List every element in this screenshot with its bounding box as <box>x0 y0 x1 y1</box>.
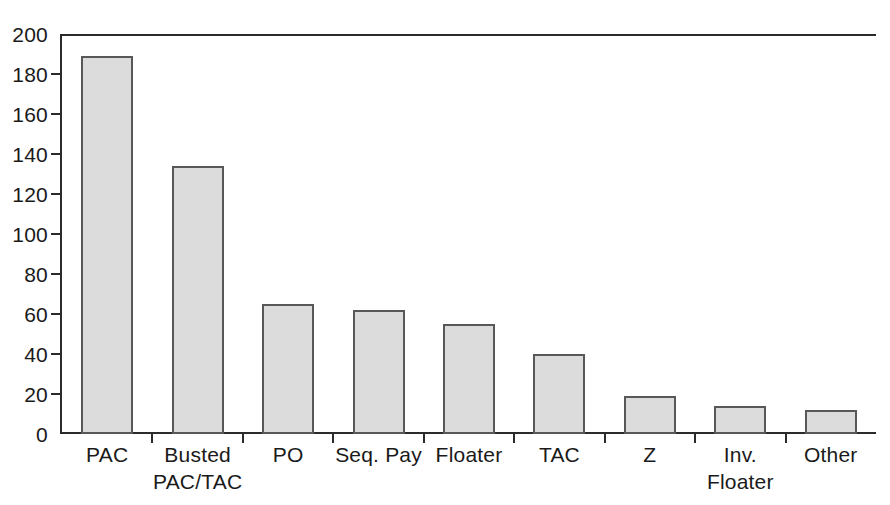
bar-chart: 200180160140120100806040200 PACBustedPAC… <box>0 0 890 505</box>
y-axis-tick-mark <box>51 273 60 275</box>
y-axis-tick-label: 80 <box>24 264 48 285</box>
y-axis-tick-mark <box>51 233 60 235</box>
bar <box>805 410 857 434</box>
x-axis-labels: PACBustedPAC/TACPOSeq. PayFloaterTACZInv… <box>62 441 876 505</box>
y-axis-tick-label: 20 <box>24 384 48 405</box>
y-axis-tick-label: 180 <box>12 64 48 85</box>
y-axis: 200180160140120100806040200 <box>0 34 60 436</box>
bar <box>624 396 676 434</box>
x-axis-label: Other <box>756 441 890 468</box>
y-axis-tick-label: 60 <box>24 304 48 325</box>
bar <box>443 324 495 434</box>
y-axis-tick-mark <box>51 73 60 75</box>
y-axis-tick-mark <box>51 393 60 395</box>
x-axis-label-line2: PAC/TAC <box>123 468 273 495</box>
y-axis-tick-mark <box>51 153 60 155</box>
bar <box>172 166 224 434</box>
y-axis-tick-label: 200 <box>12 24 48 45</box>
x-axis-label-line1: Inv. <box>724 443 757 466</box>
bar <box>81 56 133 434</box>
y-axis-tick-label: 100 <box>12 224 48 245</box>
x-axis-label-line1: TAC <box>539 443 580 466</box>
y-axis-tick-mark <box>51 193 60 195</box>
x-axis-label-line1: Z <box>643 443 656 466</box>
x-axis-label-line1: Other <box>804 443 858 466</box>
bars-container <box>62 34 876 434</box>
y-axis-tick-label: 140 <box>12 144 48 165</box>
x-axis-label-line2: Floater <box>665 468 815 495</box>
y-axis-tick-label: 160 <box>12 104 48 125</box>
y-axis-tick-label: 120 <box>12 184 48 205</box>
bar <box>533 354 585 434</box>
x-axis-label-line1: PO <box>273 443 304 466</box>
bar <box>262 304 314 434</box>
y-axis-tick-mark <box>51 353 60 355</box>
bar <box>714 406 766 434</box>
bar <box>353 310 405 434</box>
y-axis-tick-label: 40 <box>24 344 48 365</box>
y-axis-tick-mark <box>51 313 60 315</box>
y-axis-tick-mark <box>51 113 60 115</box>
